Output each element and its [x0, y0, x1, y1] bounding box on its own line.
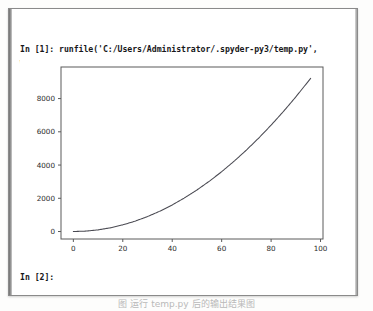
y-tick-label: 0: [50, 227, 55, 236]
ipython-console-panel[interactable]: In [1]: runfile('C:/Users/Administrator/…: [8, 8, 358, 296]
x-tick-label: 80: [267, 244, 277, 253]
y-tick-label: 4000: [37, 161, 56, 170]
x-tick-label: 20: [118, 244, 128, 253]
y-tick-label: 2000: [37, 194, 56, 203]
y-tick-label: 6000: [37, 127, 56, 136]
console-line-1: In [1]: runfile('C:/Users/Administrator/…: [20, 43, 354, 56]
input-prompt-2: In [2]:: [20, 271, 54, 283]
input-prompt-1: In [1]:: [20, 44, 54, 54]
console-command-text: runfile('C:/Users/Administrator/.spyder-…: [59, 44, 318, 54]
x-tick-label: 60: [217, 244, 227, 253]
x-tick-label: 40: [168, 244, 178, 253]
plot-svg: 02000400060008000 020406080100: [20, 56, 350, 260]
figure-caption: 图 运行 temp.py 后的输出结果图: [0, 299, 373, 310]
matplotlib-figure: 02000400060008000 020406080100: [20, 56, 350, 260]
x-tick-label: 100: [314, 244, 328, 253]
y-tick-label: 8000: [37, 94, 56, 103]
x-tick-label: 0: [71, 244, 76, 253]
axes-frame: [61, 67, 323, 239]
